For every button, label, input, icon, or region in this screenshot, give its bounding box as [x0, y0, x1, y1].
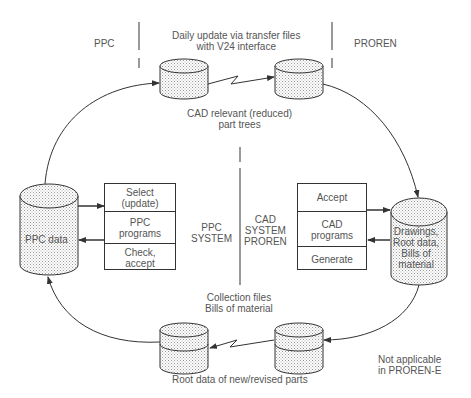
transfer-cylinder-bottom-left: [160, 323, 208, 374]
flow-cad-to-bottom: [324, 285, 419, 340]
ppc-step-check: Check, accept: [105, 243, 175, 271]
diagram-canvas: [0, 0, 471, 398]
cad-process-box: Accept CAD programs Generate: [297, 183, 367, 270]
flow-ppc-to-top: [45, 83, 159, 184]
not-applicable-note: Not applicable in PROREN-E: [378, 354, 441, 376]
transfer-cylinder-top-left: [160, 59, 208, 99]
ppc-data-label: PPC data: [25, 234, 68, 245]
transfer-link-bottom: [210, 340, 274, 348]
ppc-step-programs: PPC programs: [105, 211, 175, 244]
ppc-process-box: Select (update) PPC programs Check, acce…: [104, 183, 176, 270]
transfer-link-top: [208, 76, 274, 84]
flow-bottom-to-ppc: [48, 277, 160, 342]
cad-data-label: Drawings, Root data, Bills of material: [393, 226, 439, 270]
top-transfer-label: CAD relevant (reduced) part trees: [187, 108, 292, 130]
cad-system-label: CAD SYSTEM PROREN: [244, 214, 287, 247]
transfer-cylinder-bottom-right: [275, 323, 323, 374]
ppc-system-label: PPC SYSTEM: [191, 222, 232, 244]
cad-step-accept: Accept: [298, 184, 366, 211]
bottom-transfer-top-label: Collection files Bills of material: [205, 292, 273, 314]
cad-step-programs: CAD programs: [298, 211, 366, 247]
region-label-proren: PROREN: [354, 38, 397, 49]
flow-top-to-cad: [323, 84, 418, 197]
bottom-transfer-label: Root data of new/revised parts: [172, 374, 308, 385]
transfer-cylinder-top-right: [275, 59, 323, 99]
ppc-data-cylinder: [20, 184, 78, 275]
transfer-description: Daily update via transfer files with V24…: [172, 30, 300, 52]
region-label-ppc: PPC: [94, 38, 115, 49]
cad-step-generate: Generate: [298, 246, 366, 271]
ppc-step-select: Select (update): [105, 184, 175, 211]
